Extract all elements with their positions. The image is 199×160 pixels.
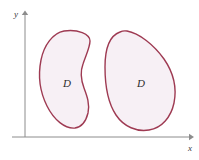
diagram-svg: D D y x	[0, 0, 199, 160]
figure-container: D D y x	[0, 0, 199, 160]
left-region-label: D	[62, 77, 71, 89]
y-axis-label: y	[13, 9, 18, 19]
right-region-label: D	[136, 77, 145, 89]
x-axis-arrow-icon	[189, 134, 194, 140]
x-axis-label: x	[187, 143, 192, 153]
y-axis-arrow-icon	[22, 11, 28, 16]
